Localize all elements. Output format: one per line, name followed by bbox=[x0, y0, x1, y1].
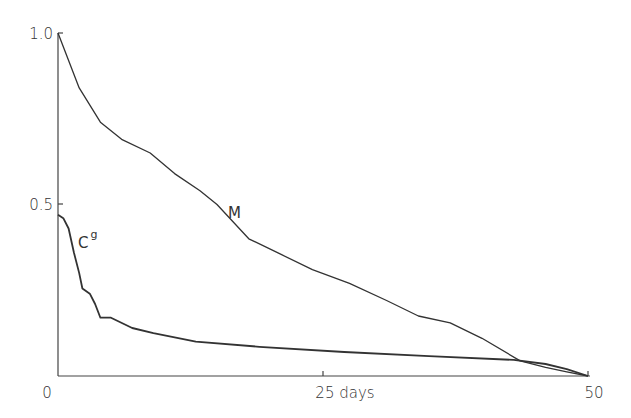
x-tick-label-25: 25 days bbox=[315, 384, 374, 402]
y-tick-label-1: 1.0 bbox=[29, 25, 53, 43]
tick-labels: 1.0 0.5 0 25 days 50 bbox=[29, 25, 603, 402]
x-tick-label-50: 50 bbox=[584, 384, 603, 402]
series-line-cg bbox=[58, 215, 588, 376]
series-label-cg-main: C bbox=[78, 234, 88, 252]
series-label-cg-sup: g bbox=[90, 228, 97, 241]
line-chart: 1.0 0.5 0 25 days 50 M Cg bbox=[0, 0, 631, 418]
x-tick-label-0: 0 bbox=[42, 384, 52, 402]
series-line-m bbox=[58, 33, 588, 376]
series-layer bbox=[58, 33, 588, 376]
y-tick-label-05: 0.5 bbox=[29, 196, 53, 214]
curve-labels: M Cg bbox=[78, 204, 241, 252]
series-label-m: M bbox=[228, 204, 241, 222]
axes bbox=[58, 33, 590, 376]
series-label-cg: Cg bbox=[78, 228, 97, 252]
